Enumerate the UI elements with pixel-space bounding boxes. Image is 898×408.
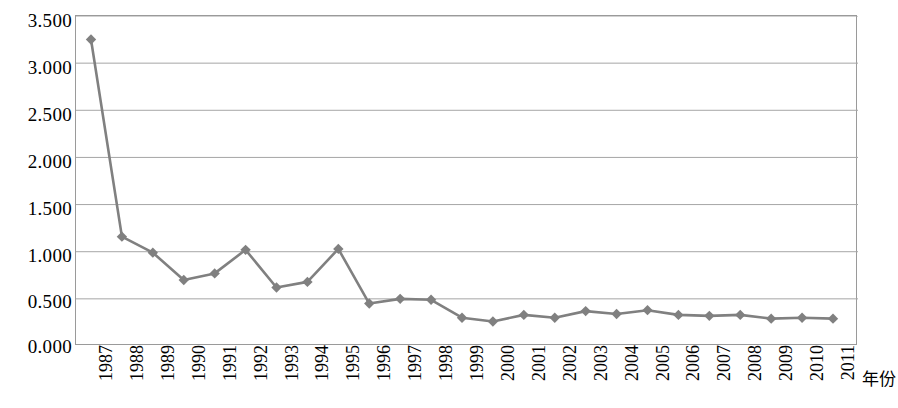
plot-area xyxy=(75,15,857,345)
data-point-marker xyxy=(86,34,96,44)
data-point-marker xyxy=(735,310,745,320)
data-point-marker xyxy=(704,311,714,321)
x-axis-tick-label: 1997 xyxy=(406,345,424,403)
x-axis-tick-label: 2009 xyxy=(777,345,795,403)
data-point-marker xyxy=(117,231,127,241)
y-axis-tick-label: 3.000 xyxy=(4,58,72,77)
x-axis-tick-label: 2002 xyxy=(561,345,579,403)
data-point-marker xyxy=(364,298,374,308)
x-axis-tick-label: 2007 xyxy=(715,345,733,403)
x-axis-tick-label: 2004 xyxy=(623,345,641,403)
data-point-marker xyxy=(580,306,590,316)
x-axis-tick-label: 1990 xyxy=(190,345,208,403)
x-axis-title: 年份 xyxy=(862,370,896,388)
y-axis-tick-label: 3.500 xyxy=(4,11,72,30)
x-axis-tick-label: 1999 xyxy=(468,345,486,403)
data-point-marker xyxy=(828,313,838,323)
gridlines xyxy=(76,16,858,299)
data-point-marker xyxy=(457,313,467,323)
x-axis-tick-label: 2005 xyxy=(654,345,672,403)
x-axis-tick-label: 1994 xyxy=(313,345,331,403)
x-axis-tick-label: 2000 xyxy=(499,345,517,403)
plot-svg xyxy=(76,16,858,346)
x-axis-tick-label: 1998 xyxy=(437,345,455,403)
data-series-line xyxy=(91,40,833,322)
data-point-marker xyxy=(488,316,498,326)
y-axis-tick-labels: 3.500 3.000 2.500 2.000 1.500 1.000 0.50… xyxy=(0,0,72,408)
x-axis-tick-label: 2003 xyxy=(592,345,610,403)
data-point-marker xyxy=(642,305,652,315)
y-axis-tick-label: 0.500 xyxy=(4,292,72,311)
x-axis-tick-label: 2001 xyxy=(530,345,548,403)
data-point-markers xyxy=(86,34,838,326)
data-point-marker xyxy=(797,313,807,323)
data-point-marker xyxy=(519,310,529,320)
data-point-marker xyxy=(766,313,776,323)
data-point-marker xyxy=(395,294,405,304)
x-axis-tick-label: 1993 xyxy=(283,345,301,403)
x-axis-tick-label: 1991 xyxy=(221,345,239,403)
x-axis-tick-label: 1989 xyxy=(159,345,177,403)
x-axis-tick-label: 1992 xyxy=(252,345,270,403)
data-point-marker xyxy=(673,310,683,320)
y-axis-tick-label: 0.000 xyxy=(4,337,72,356)
x-axis-tick-label: 1988 xyxy=(128,345,146,403)
x-axis-tick-labels: 1987198819891990199119921993199419951996… xyxy=(75,345,857,408)
x-axis-tick-label: 1995 xyxy=(344,345,362,403)
data-point-marker xyxy=(611,309,621,319)
y-axis-tick-label: 1.500 xyxy=(4,199,72,218)
x-axis-tick-label: 1996 xyxy=(375,345,393,403)
line-chart: 3.500 3.000 2.500 2.000 1.500 1.000 0.50… xyxy=(0,0,898,408)
y-axis-tick-label: 2.500 xyxy=(4,105,72,124)
x-axis-tick-label: 2006 xyxy=(684,345,702,403)
x-axis-tick-label: 2010 xyxy=(808,345,826,403)
y-axis-tick-label: 1.000 xyxy=(4,246,72,265)
x-axis-tick-label: 2011 xyxy=(839,345,857,403)
data-point-marker xyxy=(550,313,560,323)
data-point-marker xyxy=(426,295,436,305)
y-axis-tick-label: 2.000 xyxy=(4,152,72,171)
x-axis-tick-label: 1987 xyxy=(97,345,115,403)
x-axis-tick-label: 2008 xyxy=(746,345,764,403)
